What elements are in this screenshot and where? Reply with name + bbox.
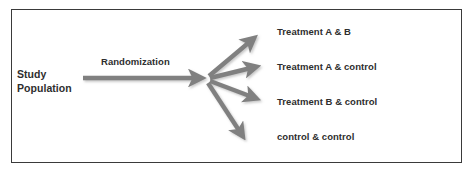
outcome-label-treatment-b-and-control: Treatment B & control xyxy=(277,96,377,108)
randomization-label: Randomization xyxy=(101,56,170,68)
outcome-label-control-and-control: control & control xyxy=(277,131,354,143)
diagram-canvas: Study Population Randomization Treatment… xyxy=(0,0,473,178)
study-population-label: Study Population xyxy=(17,68,89,95)
outcome-label-treatment-a-and-control: Treatment A & control xyxy=(277,61,377,73)
outcome-label-treatment-a-and-b: Treatment A & B xyxy=(277,26,351,38)
